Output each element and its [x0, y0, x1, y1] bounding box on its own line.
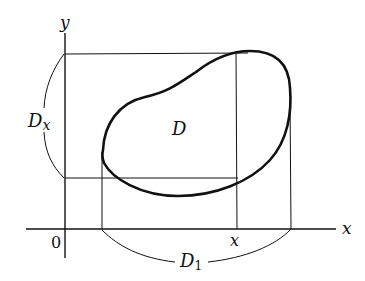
x-projection-brace-right: [208, 229, 291, 262]
y-projection-label: Dx: [27, 110, 50, 133]
diagram-canvas: y x 0 D x Dx D1: [0, 0, 365, 281]
right-vertical-guide: [290, 100, 291, 229]
region-boundary: [102, 51, 290, 196]
region-label: D: [171, 118, 187, 139]
y-projection-brace-upper: [44, 54, 64, 108]
y-projection-brace-lower: [44, 132, 64, 178]
x-axis-label: x: [342, 218, 352, 238]
x-projection-main: D: [179, 250, 195, 271]
y-axis-label: y: [59, 12, 70, 32]
y-projection-main: D: [27, 110, 43, 131]
origin-label: 0: [51, 233, 61, 252]
x-tick-label: x: [230, 231, 239, 250]
y-projection-sub: x: [42, 117, 50, 133]
x-vertical-guide: [236, 52, 237, 229]
x-projection-label: D1: [179, 250, 202, 273]
top-horizontal-guide: [65, 53, 248, 54]
x-projection-sub: 1: [194, 259, 202, 273]
x-projection-brace-left: [102, 230, 175, 262]
